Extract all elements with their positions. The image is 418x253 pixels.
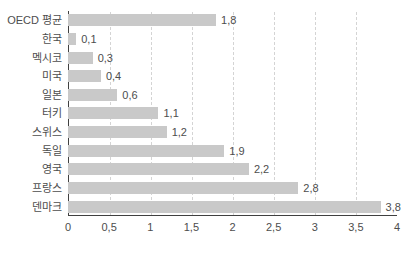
category-label: 한국: [0, 33, 68, 45]
bar-track: 2,2: [68, 163, 397, 175]
bar-row: 한국0,1: [0, 33, 397, 45]
bar: [68, 89, 117, 101]
bar-row: 터키1,1: [0, 107, 397, 119]
value-label: 0,6: [122, 89, 137, 101]
category-label: 독일: [0, 145, 68, 157]
bar-track: 2,8: [68, 182, 397, 194]
bar-track: 0,4: [68, 70, 397, 82]
x-tick-label: 2: [229, 221, 235, 233]
category-label: 터키: [0, 107, 68, 119]
value-label: 2,8: [303, 182, 318, 194]
value-label: 2,2: [254, 163, 269, 175]
x-tick-label: 4: [394, 221, 400, 233]
bar-track: 0,6: [68, 89, 397, 101]
category-label: 스위스: [0, 126, 68, 138]
bar: [68, 107, 158, 119]
category-label: 멕시코: [0, 52, 68, 64]
bar-row: 독일1,9: [0, 145, 397, 157]
bar: [68, 70, 101, 82]
bar: [68, 182, 298, 194]
category-label: 프랑스: [0, 182, 68, 194]
bar-row: 덴마크3,8: [0, 201, 397, 213]
bar-track: 1,9: [68, 145, 397, 157]
value-label: 3,8: [386, 201, 401, 213]
bar-row: 멕시코0,3: [0, 52, 397, 64]
bar-track: 1,1: [68, 107, 397, 119]
bar-track: 0,1: [68, 33, 397, 45]
bar-row: 스위스1,2: [0, 126, 397, 138]
bar-track: 0,3: [68, 52, 397, 64]
bar: [68, 33, 76, 45]
bar: [68, 201, 381, 213]
value-label: 1,8: [221, 14, 236, 26]
value-label: 0,4: [106, 70, 121, 82]
category-label: OECD 평균: [0, 14, 68, 26]
bar-row: OECD 평균1,8: [0, 14, 397, 26]
bar-row: 프랑스2,8: [0, 182, 397, 194]
bar: [68, 126, 167, 138]
bar: [68, 52, 93, 64]
bar-track: 1,8: [68, 14, 397, 26]
bar-row: 일본0,6: [0, 89, 397, 101]
value-label: 0,1: [81, 33, 96, 45]
bar-track: 3,8: [68, 201, 397, 213]
category-label: 영국: [0, 163, 68, 175]
category-label: 미국: [0, 70, 68, 82]
bar-row: 영국2,2: [0, 163, 397, 175]
value-label: 1,9: [229, 145, 244, 157]
x-tick-label: 3: [312, 221, 318, 233]
x-tick-label: 0,5: [101, 221, 116, 233]
bar-rows: OECD 평균1,8한국0,1멕시코0,3미국0,4일본0,6터키1,1스위스1…: [0, 11, 397, 216]
x-axis-tick-labels: 00,511,522,533,54: [68, 221, 397, 235]
bar-row: 미국0,4: [0, 70, 397, 82]
category-label: 덴마크: [0, 201, 68, 213]
bar: [68, 145, 224, 157]
x-tick-label: 0: [65, 221, 71, 233]
value-label: 1,1: [163, 107, 178, 119]
bar: [68, 163, 249, 175]
bar-chart: OECD 평균1,8한국0,1멕시코0,3미국0,4일본0,6터키1,1스위스1…: [0, 0, 418, 253]
x-tick-label: 1: [147, 221, 153, 233]
x-tick-label: 2,5: [266, 221, 281, 233]
value-label: 0,3: [98, 52, 113, 64]
value-label: 1,2: [172, 126, 187, 138]
bar-track: 1,2: [68, 126, 397, 138]
category-label: 일본: [0, 89, 68, 101]
x-tick-label: 3,5: [348, 221, 363, 233]
x-tick-label: 1,5: [184, 221, 199, 233]
bar: [68, 14, 216, 26]
